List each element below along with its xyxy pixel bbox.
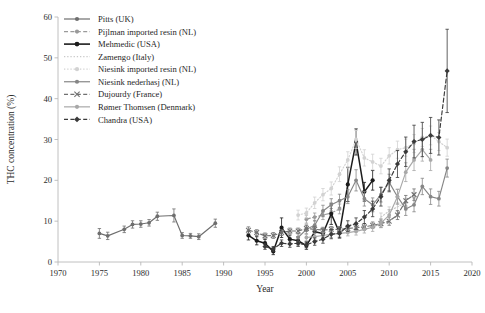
thc-concentration-chart: 0102030405060197019751980198519901995200… bbox=[0, 0, 485, 300]
x-tick-label: 2015 bbox=[422, 268, 439, 278]
legend-item-label: Zamengo (Italy) bbox=[98, 52, 154, 62]
legend-item: Zamengo (Italy) bbox=[64, 52, 154, 62]
legend-item-label: Rømer Thomsen (Denmark) bbox=[98, 102, 195, 112]
x-axis-label: Year bbox=[256, 284, 274, 294]
y-tick-label: 30 bbox=[43, 135, 52, 145]
data-series bbox=[305, 138, 433, 240]
x-tick-label: 1985 bbox=[174, 268, 191, 278]
y-tick-label: 50 bbox=[43, 53, 52, 63]
legend-item: Pijlman imported resin (NL) bbox=[64, 27, 196, 37]
legend-item: Pitts (UK) bbox=[64, 14, 134, 24]
legend-item: Rømer Thomsen (Denmark) bbox=[64, 102, 195, 112]
legend-item: Chandra (USA) bbox=[64, 115, 152, 125]
legend-item-label: Pitts (UK) bbox=[98, 14, 134, 24]
legend-item-label: Niesink nederhasj (NL) bbox=[98, 77, 179, 87]
legend-item-label: Dujourdy (France) bbox=[98, 89, 162, 99]
x-tick-label: 2000 bbox=[298, 268, 315, 278]
legend: Pitts (UK)Pijlman imported resin (NL)Meh… bbox=[64, 14, 196, 124]
legend-item: Mehmedic (USA) bbox=[64, 39, 160, 49]
y-tick-label: 20 bbox=[43, 175, 52, 185]
x-tick-label: 2005 bbox=[339, 268, 356, 278]
x-tick-label: 1975 bbox=[91, 268, 108, 278]
y-tick-label: 60 bbox=[43, 12, 52, 22]
legend-item-label: Mehmedic (USA) bbox=[98, 39, 160, 49]
legend-item-label: Pijlman imported resin (NL) bbox=[98, 27, 196, 37]
legend-item-label: Chandra (USA) bbox=[98, 115, 152, 125]
plot-area bbox=[98, 29, 450, 254]
thc-concentration-figure: 0102030405060197019751980198519901995200… bbox=[0, 0, 485, 313]
y-tick-label: 40 bbox=[43, 94, 52, 104]
y-tick-label: 10 bbox=[43, 216, 52, 226]
x-tick-label: 1980 bbox=[132, 268, 149, 278]
x-tick-label: 1970 bbox=[49, 268, 66, 278]
legend-item: Niesink imported resin (NL) bbox=[64, 64, 196, 74]
x-tick-label: 1995 bbox=[256, 268, 273, 278]
data-series bbox=[98, 209, 218, 240]
figure-caption bbox=[0, 303, 485, 313]
legend-item: Niesink nederhasj (NL) bbox=[64, 77, 179, 87]
legend-item-label: Niesink imported resin (NL) bbox=[98, 64, 196, 74]
y-tick-label: 0 bbox=[48, 257, 52, 267]
x-tick-label: 2010 bbox=[381, 268, 398, 278]
x-tick-label: 2020 bbox=[463, 268, 480, 278]
x-tick-label: 1990 bbox=[215, 268, 232, 278]
y-axis-label: THC concentration (%) bbox=[6, 95, 17, 185]
legend-item: Dujourdy (France) bbox=[64, 89, 162, 99]
